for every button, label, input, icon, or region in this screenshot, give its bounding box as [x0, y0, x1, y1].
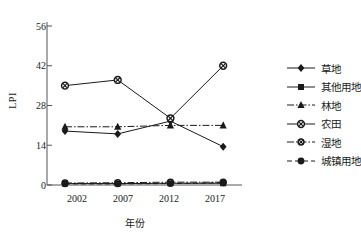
- legend-item-chengzhenyongdi[interactable]: 城镇用地: [286, 155, 361, 167]
- legend-item-caodi[interactable]: 草地: [286, 62, 361, 74]
- series-草地: [62, 117, 227, 151]
- legend-key-caodi: [286, 62, 316, 74]
- legend-label-chengzhenyongdi: 城镇用地: [321, 153, 361, 168]
- legend-key-chengzhenyongdi: [286, 155, 316, 167]
- legend-key-nongtian: [286, 118, 316, 130]
- legend-label-shidi: 湿地: [321, 135, 341, 150]
- legend-item-shidi[interactable]: 湿地: [286, 136, 361, 148]
- legend-label-nongtian: 农田: [321, 116, 341, 131]
- legend-label-caodi: 草地: [321, 61, 341, 76]
- legend-item-lindi[interactable]: 林地: [286, 99, 361, 111]
- legend-key-qitayongdi: [286, 81, 316, 93]
- legend-key-shidi: [286, 136, 316, 148]
- chart-canvas: [0, 0, 250, 237]
- legend-item-qitayongdi[interactable]: 其他用地: [286, 81, 361, 93]
- chart-legend: 草地 其他用地 林地 农田 湿地 城镇用地: [286, 62, 361, 167]
- legend-key-lindi: [286, 99, 316, 111]
- legend-label-lindi: 林地: [321, 98, 341, 113]
- plot-area: LPI 56 42 28 14 0 2002 2007 2012 2017 年份: [0, 0, 250, 237]
- legend-label-qitayongdi: 其他用地: [321, 79, 361, 94]
- legend-item-nongtian[interactable]: 农田: [286, 118, 361, 130]
- series-农田: [62, 62, 227, 121]
- series-林地: [61, 121, 226, 130]
